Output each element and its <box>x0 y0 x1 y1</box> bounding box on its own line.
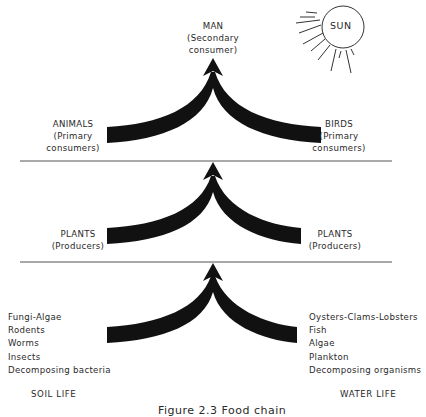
plants-left-label: PLANTS (Producers) <box>50 228 106 252</box>
birds-label: BIRDS (Primary consumers) <box>306 118 372 154</box>
list-item: Plankton <box>309 351 421 364</box>
list-item: Algae <box>309 337 421 350</box>
man-subtitle-2: consumer) <box>168 44 258 56</box>
animals-subtitle-2: consumers) <box>40 142 106 154</box>
list-item: Fish <box>309 324 421 337</box>
water-life-list: Oysters-Clams-Lobsters Fish Algae Plankt… <box>309 311 421 377</box>
list-item: Decomposing bacteria <box>8 364 111 377</box>
man-subtitle-1: (Secondary <box>168 32 258 44</box>
animals-label: ANIMALS (Primary consumers) <box>40 118 106 154</box>
arrow-to-man <box>107 58 321 143</box>
birds-subtitle-1: (Primary <box>306 130 372 142</box>
list-item: Rodents <box>8 324 111 337</box>
list-item: Worms <box>8 337 111 350</box>
plants-left-title: PLANTS <box>50 228 106 240</box>
list-item: Fungi-Algae <box>8 311 111 324</box>
animals-title: ANIMALS <box>40 118 106 130</box>
sun-label: SUN <box>330 20 352 31</box>
birds-title: BIRDS <box>306 118 372 130</box>
man-title: MAN <box>168 20 258 32</box>
list-item: Oysters-Clams-Lobsters <box>309 311 421 324</box>
list-item: Insects <box>8 351 111 364</box>
soil-life-footer: SOIL LIFE <box>31 389 76 399</box>
animals-subtitle-1: (Primary <box>40 130 106 142</box>
plants-right-label: PLANTS (Producers) <box>304 228 366 252</box>
arrow-to-producers <box>107 263 297 343</box>
birds-subtitle-2: consumers) <box>306 142 372 154</box>
plants-right-title: PLANTS <box>304 228 366 240</box>
list-item: Decomposing organisms <box>309 364 421 377</box>
plants-left-subtitle: (Producers) <box>50 240 106 252</box>
figure-caption: Figure 2.3 Food chain <box>158 404 286 417</box>
sun-icon <box>296 6 364 73</box>
soil-life-list: Fungi-Algae Rodents Worms Insects Decomp… <box>8 311 111 377</box>
arrow-to-consumers <box>107 162 301 244</box>
water-life-footer: WATER LIFE <box>340 389 396 399</box>
man-label: MAN (Secondary consumer) <box>168 20 258 56</box>
plants-right-subtitle: (Producers) <box>304 240 366 252</box>
